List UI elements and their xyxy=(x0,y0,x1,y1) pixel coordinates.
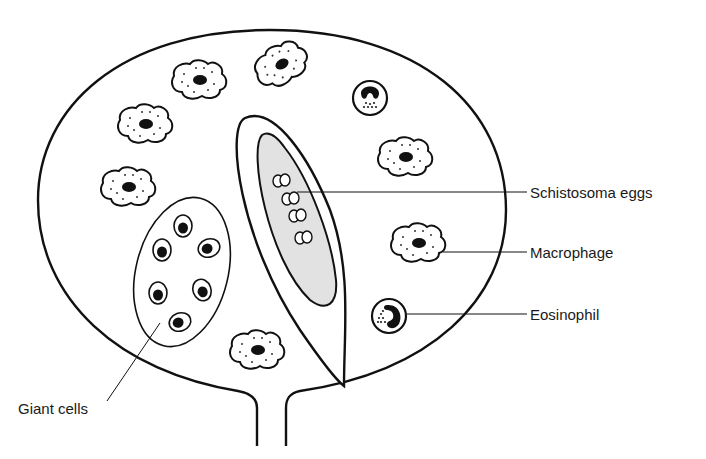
label-giant-cells: Giant cells xyxy=(18,401,88,416)
label-schistosoma-eggs: Schistosoma eggs xyxy=(530,185,653,200)
granuloma-diagram xyxy=(0,0,706,459)
leader-giant-cells xyxy=(107,323,160,401)
label-eosinophil: Eosinophil xyxy=(530,307,599,322)
eosinophils xyxy=(353,81,406,333)
giant-cell xyxy=(119,187,245,357)
label-macrophage: Macrophage xyxy=(530,245,613,260)
